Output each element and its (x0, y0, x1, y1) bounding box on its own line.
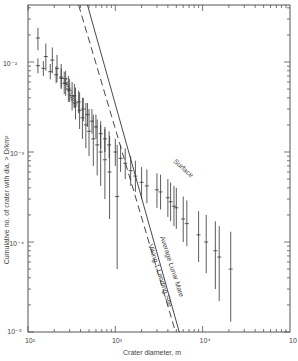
y-tick-label-1e-2: 10⁻² (3, 60, 18, 67)
y-axis-label: Cumulative no. of crater with dia. > D/k… (3, 135, 10, 264)
x-tick-label-1e5: 10 (289, 337, 297, 344)
x-tick-label-1e4: 10⁴ (200, 337, 211, 344)
ares-vallis-series (36, 58, 119, 269)
y-tick-label-1e-4: 10⁻⁴ (9, 240, 24, 247)
surface-series (36, 28, 233, 322)
y-tick-label-1e-5: 10⁻⁵ (7, 328, 22, 335)
axis-ticks (28, 5, 290, 332)
x-axis-label: Crater diameter, m (123, 349, 181, 356)
plot-frame (28, 5, 290, 332)
y-tick-label-1e-3: 10⁻³ (10, 150, 25, 157)
x-tick-label-1e2: 10² (25, 337, 36, 344)
crater-density-chart: 10⁻² 10⁻³ 10⁻⁴ 10⁻⁵ 10² 10³ 10⁴ 10 Crate… (0, 0, 298, 361)
surface-label: Surface (172, 158, 195, 179)
x-tick-label-1e3: 10³ (112, 337, 123, 344)
